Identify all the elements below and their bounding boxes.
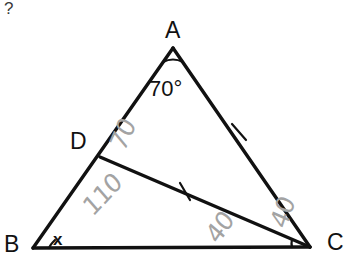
- segment-bc: [33, 247, 310, 248]
- vertex-label-d: D: [70, 130, 87, 153]
- corner-question-mark: ?: [4, 0, 13, 17]
- vertex-label-b: B: [4, 233, 19, 256]
- angle-label-b-unknown-x: x: [53, 231, 62, 248]
- angle-label-a-70-degrees: 70°: [149, 78, 182, 100]
- vertex-label-c: C: [327, 231, 344, 254]
- vertex-label-a: A: [165, 19, 180, 42]
- angle-arc-a: [163, 60, 183, 63]
- geometry-figure-page: A B C D 70° x ? 70 110 40 40: [0, 0, 358, 274]
- angle-arc-c: [292, 239, 293, 247]
